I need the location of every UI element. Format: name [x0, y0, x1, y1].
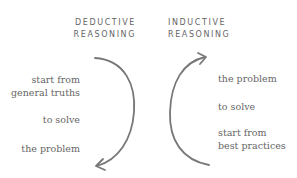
inductive-curved-arrow-icon	[170, 57, 209, 165]
reasoning-diagram: DEDUCTIVE REASONING INDUCTIVE REASONING …	[0, 0, 297, 178]
arrows-layer	[0, 0, 297, 178]
deductive-curved-arrow-icon	[95, 58, 134, 166]
